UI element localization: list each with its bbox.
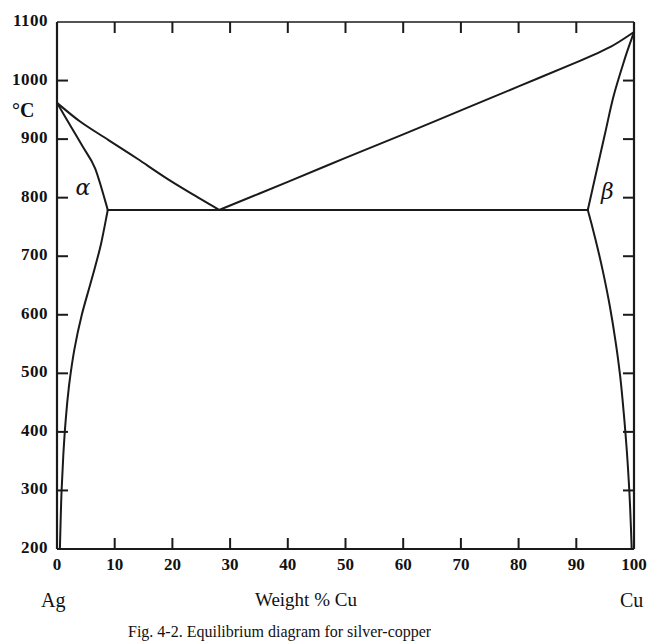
x-tick-label: 30 bbox=[210, 555, 250, 575]
x-tick-label: 100 bbox=[614, 555, 654, 575]
x-tick-label: 90 bbox=[556, 555, 596, 575]
curve-liquidus-cu-rich bbox=[219, 32, 634, 210]
beta-region-label: β bbox=[601, 179, 614, 204]
y-tick-label: 1000 bbox=[2, 70, 48, 90]
y-tick-label: 600 bbox=[2, 304, 48, 324]
alpha-region-label: α bbox=[75, 175, 90, 200]
y-axis-unit-label: °C bbox=[12, 99, 34, 122]
axes-frame bbox=[57, 22, 634, 549]
x-tick-label: 50 bbox=[326, 555, 366, 575]
y-tick-label: 400 bbox=[2, 421, 48, 441]
y-tick-label: 500 bbox=[2, 362, 48, 382]
x-tick-label: 60 bbox=[383, 555, 423, 575]
figure-caption: Fig. 4-2. Equilibrium diagram for silver… bbox=[128, 623, 431, 641]
axis-ticks bbox=[57, 22, 634, 549]
x-tick-label: 10 bbox=[95, 555, 135, 575]
y-tick-label: 900 bbox=[2, 128, 48, 148]
phase-boundary-curves bbox=[57, 32, 634, 549]
y-tick-label: 1100 bbox=[2, 11, 48, 31]
right-endmember-label: Cu bbox=[620, 589, 643, 612]
x-tick-label: 80 bbox=[499, 555, 539, 575]
x-tick-label: 20 bbox=[152, 555, 192, 575]
y-tick-label: 700 bbox=[2, 245, 48, 265]
y-tick-label: 800 bbox=[2, 187, 48, 207]
curve-solvus-alpha bbox=[60, 210, 108, 549]
x-tick-label: 40 bbox=[268, 555, 308, 575]
curve-solvus-beta bbox=[588, 210, 632, 549]
x-tick-label: 0 bbox=[37, 555, 77, 575]
x-axis-title: Weight % Cu bbox=[255, 589, 357, 611]
y-tick-label: 300 bbox=[2, 479, 48, 499]
x-tick-label: 70 bbox=[441, 555, 481, 575]
left-endmember-label: Ag bbox=[41, 589, 65, 612]
